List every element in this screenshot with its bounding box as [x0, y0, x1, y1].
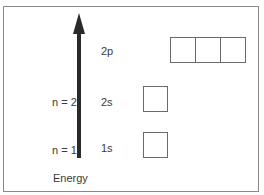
energy-axis-label: Energy: [53, 172, 88, 184]
orbital-box-2s: [143, 86, 168, 112]
orbital-label-1s: 1s: [101, 142, 113, 154]
orbital-box-2p-3: [220, 37, 246, 63]
level-label-n2: n = 2: [52, 96, 77, 108]
orbital-box-1s: [143, 132, 168, 158]
energy-arrow-icon: [0, 0, 264, 195]
level-label-n1: n = 1: [52, 144, 77, 156]
orbital-box-2p-2: [195, 37, 221, 63]
orbital-box-2p-1: [170, 37, 196, 63]
orbital-label-2s: 2s: [101, 96, 113, 108]
orbital-label-2p: 2p: [101, 45, 113, 57]
